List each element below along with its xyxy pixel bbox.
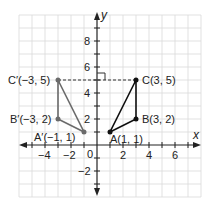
- grid: [19, 15, 201, 197]
- point-b: [134, 117, 139, 122]
- label-c-prime: C′(−3, 5): [8, 74, 50, 86]
- point-a-prime: [82, 130, 87, 135]
- coordinate-plane: −4 −2 0 2 4 6 8 6 4 2 −2 x y C(3, 5) B(3…: [0, 0, 219, 210]
- tick-label-origin: 0: [87, 148, 93, 160]
- tick-label-y-8: 8: [84, 35, 90, 47]
- y-axis: [94, 12, 100, 196]
- tick-label-y-6: 6: [84, 61, 90, 73]
- y-axis-label: y: [100, 8, 108, 22]
- label-c: C(3, 5): [142, 74, 176, 86]
- tick-label-x-4: 4: [146, 149, 152, 161]
- tick-label-y-4: 4: [84, 87, 90, 99]
- label-a: A(1, 1): [110, 133, 143, 145]
- label-b: B(3, 2): [142, 113, 175, 125]
- x-axis-label: x: [192, 128, 200, 142]
- tick-label-y-2: 2: [84, 113, 90, 125]
- tick-label-x-2: 2: [120, 149, 126, 161]
- tick-label-x-neg4: −4: [38, 149, 51, 161]
- tick-label-x-neg2: −2: [63, 149, 76, 161]
- point-c-prime: [56, 78, 61, 83]
- point-b-prime: [56, 117, 61, 122]
- label-a-prime: A′(−1, 1): [34, 131, 76, 143]
- right-angle-marker: [97, 73, 105, 80]
- point-c: [134, 78, 139, 83]
- tick-label-y-neg2: −2: [78, 165, 91, 177]
- tick-label-x-6: 6: [172, 149, 178, 161]
- label-b-prime: B′(−3, 2): [10, 113, 52, 125]
